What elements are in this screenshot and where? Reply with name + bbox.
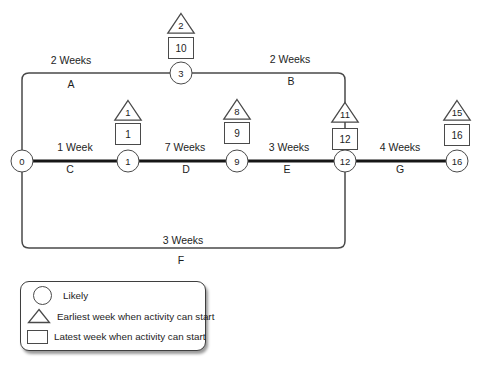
latest-square-node-9: 9 [224,122,250,144]
diagram-canvas: 2 Weeks A 2 Weeks B 1 Week C 7 Weeks D 3… [0,0,483,365]
earliest-triangle-node-1: 1 [113,99,143,122]
legend-item-earliest: Earliest week when activity can start [27,306,199,326]
latest-square-node-3: 10 [168,37,194,59]
earliest-triangle-node-9: 8 [222,98,252,121]
duration-label-f: 3 Weeks [163,234,204,246]
activity-label-e: E [283,163,290,175]
legend-box: Likely Earliest week when activity can s… [20,281,206,351]
latest-square-node-12: 12 [332,128,358,150]
duration-label-c: 1 Week [57,141,92,153]
legend-item-latest: Latest week when activity can start [27,327,199,347]
circle-icon [27,286,57,305]
node-12: 12 [334,150,357,173]
activity-label-a: A [67,78,74,90]
triangle-icon [27,308,51,324]
square-icon [27,330,48,344]
node-3: 3 [170,62,193,85]
earliest-value-node-12: 11 [330,110,360,120]
activity-label-d: D [182,163,190,175]
earliest-value-node-1: 1 [113,108,143,118]
activity-label-g: G [396,163,404,175]
earliest-value-node-9: 8 [222,107,252,117]
duration-label-g: 4 Weeks [380,141,421,153]
duration-label-d: 7 Weeks [165,141,206,153]
activity-label-f: F [178,254,184,266]
earliest-value-node-3: 2 [166,21,196,31]
duration-label-b: 2 Weeks [270,53,311,65]
earliest-triangle-node-12: 11 [330,101,360,124]
legend-item-likely: Likely [27,286,199,306]
earliest-triangle-node-16: 15 [442,99,472,122]
earliest-triangle-node-3: 2 [166,12,196,35]
duration-label-a: 2 Weeks [51,54,92,66]
activity-label-b: B [287,75,294,87]
node-16: 16 [446,150,469,173]
node-0: 0 [11,150,34,173]
latest-square-node-1: 1 [115,123,141,145]
duration-label-e: 3 Weeks [269,141,310,153]
node-9: 9 [226,150,249,173]
legend-label: Likely [63,290,88,301]
activity-label-c: C [66,163,74,175]
legend-label: Earliest week when activity can start [57,311,214,322]
earliest-value-node-16: 15 [442,108,472,118]
node-1: 1 [117,150,140,173]
latest-square-node-16: 16 [444,124,470,146]
legend-label: Latest week when activity can start [54,331,205,342]
